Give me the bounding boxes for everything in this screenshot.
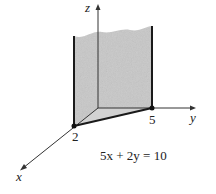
- y-axis-label: y: [188, 110, 196, 125]
- z-axis-arrow-icon: [96, 4, 101, 10]
- y-intercept-label: 5: [149, 112, 156, 127]
- z-axis-label: z: [84, 0, 90, 15]
- x-axis: [23, 108, 98, 168]
- equation-label: 5x + 2y = 10: [100, 148, 167, 163]
- x-axis-label: x: [15, 169, 22, 184]
- x-intercept-point: [72, 124, 77, 129]
- x-intercept-label: 2: [72, 129, 79, 144]
- y-intercept-point: [150, 106, 155, 111]
- plane-diagram: z y x 2 5 5x + 2y = 10: [0, 0, 216, 194]
